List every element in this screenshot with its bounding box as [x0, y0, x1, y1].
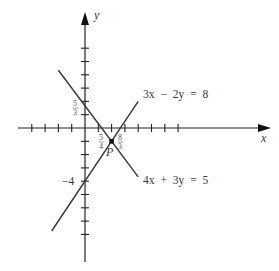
y-axis-label: y: [93, 8, 100, 22]
x-axis-label: x: [260, 131, 267, 145]
svg-text:8: 8: [118, 133, 122, 142]
svg-text:4: 4: [99, 142, 103, 151]
svg-text:3: 3: [118, 142, 122, 151]
y-axis: y: [81, 8, 100, 262]
svg-text:3: 3: [73, 108, 77, 117]
x-axis: x: [18, 124, 271, 145]
svg-text:5: 5: [99, 133, 103, 142]
y-intercept-minus-4: −4: [62, 175, 74, 187]
line-3x-minus-2y-eq-8: [52, 101, 139, 231]
equation-label-line2: 4x + 3y = 5: [143, 174, 209, 187]
y-intercept-5-3: 5 3: [73, 99, 79, 117]
equation-label-line1: 3x − 2y = 8: [143, 88, 209, 101]
point-p-label: P: [105, 145, 114, 159]
intersection-point-p: [109, 139, 114, 144]
graph-figure: x y P 3x − 2y =: [0, 0, 279, 271]
x-intercept-5-4: 5 4: [99, 133, 105, 151]
x-intercept-8-3: 8 3: [118, 133, 124, 151]
y-axis-arrow-icon: [81, 12, 89, 25]
svg-text:5: 5: [73, 99, 77, 108]
